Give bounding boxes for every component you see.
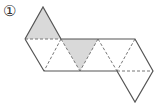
shaded-top-triangle [25, 7, 61, 39]
shaded-inverted-triangle [61, 39, 98, 71]
octahedron-net-diagram [0, 0, 157, 106]
